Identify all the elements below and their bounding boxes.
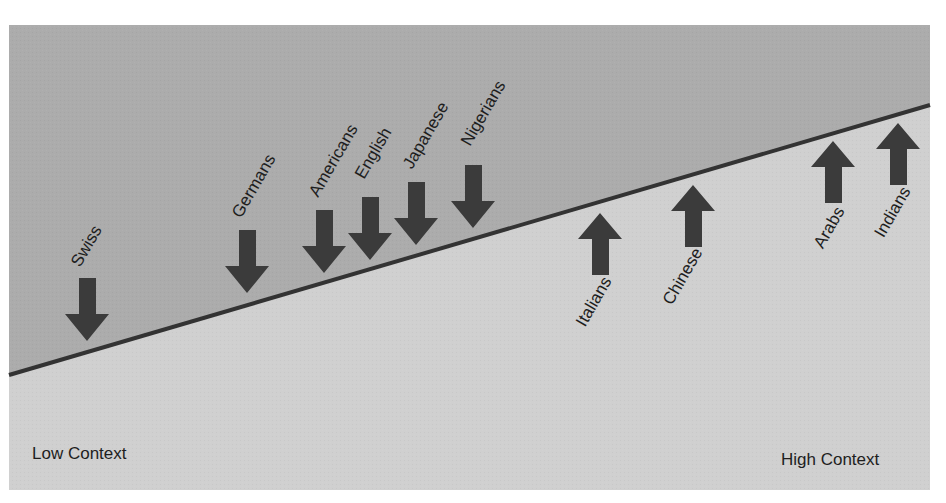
high-context-label: High Context <box>781 450 879 470</box>
context-diagram: Swiss Germans Americans English Japanese… <box>0 0 946 503</box>
low-context-label: Low Context <box>32 444 127 464</box>
